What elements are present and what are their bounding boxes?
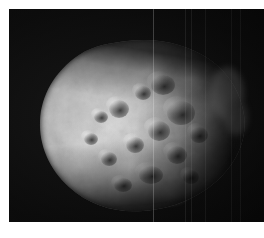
vertical-streak-artifacts	[9, 9, 264, 222]
image-frame	[9, 9, 264, 222]
figure-root: Grayscale spacecraft image of an irregul…	[0, 0, 264, 238]
